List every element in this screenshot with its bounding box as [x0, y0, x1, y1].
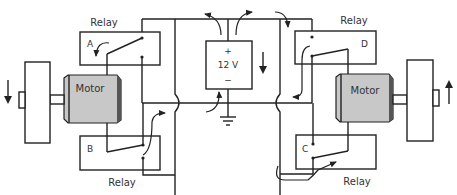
middle-rail	[142, 89, 312, 117]
ground-icon	[220, 117, 236, 125]
relay-a-letter: A	[87, 39, 94, 49]
wheel-left	[4, 62, 50, 143]
relay-d-caption: Relay	[340, 15, 368, 26]
relay-b-letter: B	[87, 144, 93, 154]
battery-minus-label: −	[224, 75, 232, 85]
motor-left: Motor	[50, 75, 121, 123]
motor-right: Motor	[336, 74, 407, 122]
relay-a-caption: Relay	[90, 17, 118, 28]
relay-b-caption: Relay	[108, 177, 136, 188]
battery-plus-label: +	[224, 46, 232, 56]
rotation-up-icon	[445, 80, 453, 88]
arrow-down-icon	[259, 66, 267, 74]
battery-12v: + 12 V −	[206, 41, 252, 89]
relay-motor-diagram: + 12 V − Relay A B Relay Relay D	[0, 0, 457, 195]
motor-right-label: Motor	[351, 85, 381, 96]
relay-c-caption: Relay	[343, 176, 371, 187]
battery-voltage-label: 12 V	[218, 60, 239, 70]
motor-left-label: Motor	[76, 83, 106, 94]
relay-d-letter: D	[361, 39, 368, 49]
relay-c-letter: C	[302, 144, 308, 154]
wheel-right	[407, 60, 453, 141]
rotation-down-icon	[4, 96, 12, 104]
